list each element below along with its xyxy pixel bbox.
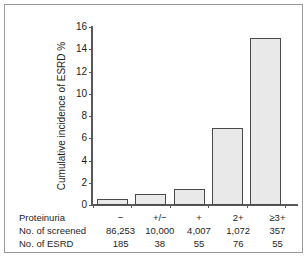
table-cell: 55 — [258, 237, 297, 250]
table-cell: 1,072 — [219, 224, 258, 237]
figure: Cumulative incidence of ESRD % 024681012… — [0, 0, 307, 257]
y-axis-tick-label: 12 — [76, 67, 87, 77]
plot-area — [93, 27, 285, 205]
table-cell: 4,007 — [179, 224, 218, 237]
table-cell: +/− — [140, 211, 179, 224]
table-cell: − — [101, 211, 140, 224]
table-cell: 185 — [101, 237, 140, 250]
table-cell: 55 — [179, 237, 218, 250]
figure-frame: Cumulative incidence of ESRD % 024681012… — [4, 4, 303, 253]
bar — [135, 194, 166, 205]
table-cell: 86,253 — [101, 224, 140, 237]
table-cell: 38 — [140, 237, 179, 250]
y-axis-tick-label: 2 — [81, 178, 87, 188]
table-row-cells: 18538557655 — [101, 237, 297, 250]
table-row-cells: −+/−+2+≥3+ — [101, 211, 297, 224]
table-row-label: Proteinuria — [19, 211, 101, 224]
bar — [174, 189, 205, 205]
table-cell: 2+ — [219, 211, 258, 224]
y-axis-tick-label: 10 — [76, 89, 87, 99]
bar — [212, 128, 243, 205]
y-axis-tick-label: 4 — [81, 156, 87, 166]
y-axis-tick-label: 16 — [76, 22, 87, 32]
table-cell: + — [179, 211, 218, 224]
y-axis-tick-label: 6 — [81, 133, 87, 143]
x-axis-tick-mark — [285, 204, 286, 208]
table-row-label: No. of screened — [19, 224, 101, 237]
table-cell: 76 — [219, 237, 258, 250]
table-cell: 357 — [258, 224, 297, 237]
table-cell: ≥3+ — [258, 211, 297, 224]
bar — [250, 38, 281, 205]
table-row: No. of screened86,25310,0004,0071,072357 — [19, 224, 297, 237]
y-axis-tick-label: 8 — [81, 111, 87, 121]
bar — [97, 199, 128, 205]
table-row-cells: 86,25310,0004,0071,072357 — [101, 224, 297, 237]
table-row-label: No. of ESRD — [19, 237, 101, 250]
table-row: No. of ESRD18538557655 — [19, 237, 297, 250]
table-row: Proteinuria−+/−+2+≥3+ — [19, 211, 297, 224]
y-axis-label: Cumulative incidence of ESRD % — [55, 27, 69, 205]
data-table: Proteinuria−+/−+2+≥3+No. of screened86,2… — [19, 211, 297, 250]
table-cell: 10,000 — [140, 224, 179, 237]
y-axis-tick-label: 0 — [81, 200, 87, 210]
y-axis-tick-label: 14 — [76, 44, 87, 54]
